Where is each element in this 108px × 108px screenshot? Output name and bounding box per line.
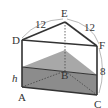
- label-C: C: [94, 98, 101, 108]
- prism-svg: E D F A C B 12 12 8 h: [0, 0, 108, 108]
- label-F: F: [99, 39, 105, 51]
- dim-h: h: [12, 72, 18, 84]
- dim-FC: 8: [100, 65, 106, 77]
- dim-EF: 12: [84, 21, 95, 33]
- prism-diagram: E D F A C B 12 12 8 h: [0, 0, 108, 108]
- edge-DF: [22, 40, 97, 46]
- label-E: E: [61, 7, 68, 19]
- label-B: B: [61, 69, 68, 81]
- dim-DE: 12: [35, 18, 46, 30]
- label-A: A: [18, 91, 26, 103]
- label-D: D: [12, 34, 20, 46]
